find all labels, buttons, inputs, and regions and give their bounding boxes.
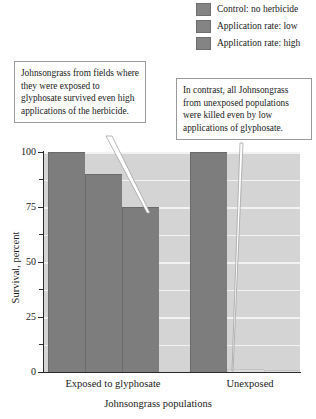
callout-left: Johnsongrass from fields where they were…	[14, 61, 146, 123]
chart-figure: Control: no herbicide Application rate: …	[0, 0, 316, 419]
callout-right: In contrast, all Johnsongrass from unexp…	[176, 78, 312, 140]
